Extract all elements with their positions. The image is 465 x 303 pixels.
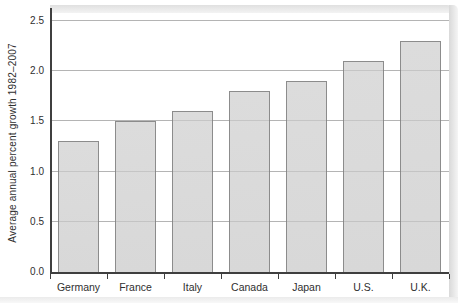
y-tick-label: 0.5 xyxy=(0,216,44,228)
x-tick-mark xyxy=(449,274,450,279)
x-category-label: U.S. xyxy=(335,281,392,294)
x-category-label: Germany xyxy=(50,281,107,294)
y-tick-label: 2.0 xyxy=(0,65,44,77)
plot-area xyxy=(50,8,449,274)
gridlines-overlay-layer xyxy=(52,8,449,272)
y-tick-label: 0.0 xyxy=(0,266,44,278)
x-tick-mark xyxy=(335,274,336,279)
x-tick-mark xyxy=(221,274,222,279)
gridline-overlay xyxy=(52,120,449,121)
bar-chart-figure: Average annual percent growth 1982–2007 … xyxy=(0,0,465,303)
gridline-overlay xyxy=(52,70,449,71)
figure-frame-bottom-edge xyxy=(0,297,458,303)
gridline-overlay xyxy=(52,20,449,21)
x-tick-mark xyxy=(392,274,393,279)
x-tick-mark xyxy=(278,274,279,279)
x-tick-mark xyxy=(50,274,51,279)
x-category-label: France xyxy=(107,281,164,294)
y-tick-label: 2.5 xyxy=(0,15,44,27)
x-tick-mark xyxy=(107,274,108,279)
y-axis-title: Average annual percent growth 1982–2007 xyxy=(6,12,20,274)
figure-frame-right-edge xyxy=(449,5,458,297)
x-category-label: Canada xyxy=(221,281,278,294)
gridline-overlay xyxy=(52,171,449,172)
x-category-label: U.K. xyxy=(392,281,449,294)
x-tick-mark xyxy=(164,274,165,279)
gridline-overlay xyxy=(52,221,449,222)
x-category-label: Italy xyxy=(164,281,221,294)
y-tick-label: 1.0 xyxy=(0,166,44,178)
x-category-label: Japan xyxy=(278,281,335,294)
y-tick-label: 1.5 xyxy=(0,115,44,127)
